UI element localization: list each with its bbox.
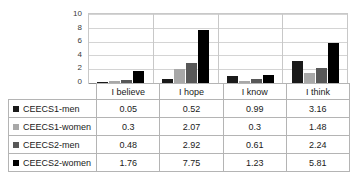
bar[interactable] xyxy=(304,73,315,83)
table-value-cell: 0.61 xyxy=(223,136,286,154)
bar[interactable] xyxy=(316,68,327,83)
legend-swatch-icon xyxy=(13,160,19,166)
category-header-cell: I believe xyxy=(97,84,160,100)
table-value-cell: 2.07 xyxy=(160,118,223,136)
legend-swatch-icon xyxy=(13,106,19,112)
table-value-cell: 0.05 xyxy=(97,100,160,118)
table-row: CEECS2-men0.482.920.612.24 xyxy=(9,136,350,154)
category-header-cell: I think xyxy=(286,84,349,100)
bar[interactable] xyxy=(133,71,144,83)
bar[interactable] xyxy=(174,69,185,83)
table-value-cell: 0.48 xyxy=(97,136,160,154)
table-value-cell: 1.48 xyxy=(286,118,349,136)
bar-group xyxy=(89,14,154,83)
y-tick-label: 4 xyxy=(78,51,82,59)
table-value-cell: 2.92 xyxy=(160,136,223,154)
legend-label: CEECS1-men xyxy=(23,104,80,114)
table-value-cell: 3.16 xyxy=(286,100,349,118)
category-header-cell: I hope xyxy=(160,84,223,100)
bar[interactable] xyxy=(328,43,339,83)
data-table: I believeI hopeI knowI thinkCEECS1-men0.… xyxy=(8,83,350,172)
table-value-cell: 0.3 xyxy=(97,118,160,136)
y-tick-label: 10 xyxy=(73,10,82,18)
table-row: CEECS1-women0.32.070.31.48 xyxy=(9,118,350,136)
table-value-cell: 1.23 xyxy=(223,154,286,172)
bar[interactable] xyxy=(292,61,303,83)
table-corner-cell xyxy=(9,84,97,100)
legend-cell[interactable]: CEECS2-women xyxy=(9,154,97,172)
table-body: I believeI hopeI knowI thinkCEECS1-men0.… xyxy=(9,84,350,172)
table-row: CEECS2-women1.767.751.235.81 xyxy=(9,154,350,172)
legend-label: CEECS1-women xyxy=(23,122,91,132)
y-tick-label: 8 xyxy=(78,24,82,32)
plot-area xyxy=(88,13,348,84)
table-value-cell: 0.52 xyxy=(160,100,223,118)
legend-swatch-icon xyxy=(13,124,19,130)
legend-label: CEECS2-men xyxy=(23,140,80,150)
table-value-cell: 5.81 xyxy=(286,154,349,172)
bar[interactable] xyxy=(198,30,209,83)
legend-cell[interactable]: CEECS1-men xyxy=(9,100,97,118)
table-value-cell: 1.76 xyxy=(97,154,160,172)
legend-swatch-icon xyxy=(13,142,19,148)
category-header-cell: I know xyxy=(223,84,286,100)
table-row: CEECS1-men0.050.520.993.16 xyxy=(9,100,350,118)
chart-page: 10 8 6 4 2 0 I believeI hopeI knowI thin… xyxy=(0,0,358,176)
bar[interactable] xyxy=(227,76,238,83)
table-value-cell: 0.99 xyxy=(223,100,286,118)
table-header-row: I believeI hopeI knowI think xyxy=(9,84,350,100)
legend-label: CEECS2-women xyxy=(23,158,91,168)
y-axis-tick-labels: 10 8 6 4 2 0 xyxy=(58,10,82,86)
y-tick-label: 6 xyxy=(78,37,82,45)
table-value-cell: 2.24 xyxy=(286,136,349,154)
bar-group xyxy=(283,14,347,83)
bar-groups xyxy=(89,14,347,83)
bar[interactable] xyxy=(263,75,274,83)
bar-group xyxy=(219,14,284,83)
y-tick-label: 2 xyxy=(78,64,82,72)
legend-cell[interactable]: CEECS2-men xyxy=(9,136,97,154)
bar[interactable] xyxy=(186,63,197,83)
bar-group xyxy=(154,14,219,83)
table-value-cell: 7.75 xyxy=(160,154,223,172)
table-value-cell: 0.3 xyxy=(223,118,286,136)
legend-cell[interactable]: CEECS1-women xyxy=(9,118,97,136)
